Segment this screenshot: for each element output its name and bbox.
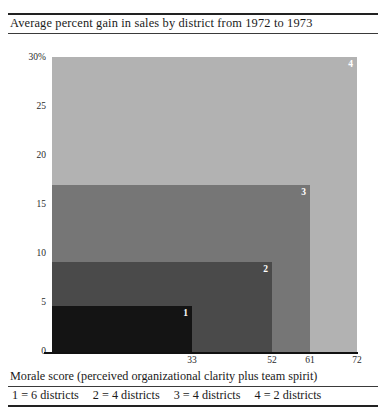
chart-title: Average percent gain in sales by distric… [10, 16, 380, 31]
y-tick-label: 30% [29, 53, 46, 63]
plot-area: 4 3 2 1 [52, 57, 357, 352]
legend-entry-3: 3 = 4 districts [174, 388, 241, 402]
footer-rule-top [8, 386, 378, 387]
y-tick-label: 10 [37, 249, 47, 259]
y-tick-label: 15 [37, 200, 47, 210]
footer-rule-bottom [8, 405, 378, 407]
bar-group-1[interactable]: 1 [52, 306, 192, 352]
legend-entry-2: 2 = 4 districts [93, 388, 160, 402]
bar-label-1: 1 [183, 309, 188, 319]
chart-page: Average percent gain in sales by distric… [0, 0, 386, 418]
y-tick-label: 20 [37, 151, 47, 161]
bar-label-2: 2 [263, 265, 268, 275]
x-tick-label: 61 [305, 356, 315, 366]
x-tick-label: 33 [187, 356, 197, 366]
legend-entry-4: 4 = 2 districts [255, 388, 322, 402]
x-axis-line [44, 352, 358, 354]
y-axis-ticks: 30% 25 20 15 10 5 0 [0, 0, 46, 418]
x-tick-label: 72 [352, 356, 362, 366]
title-rule-top [8, 13, 378, 15]
legend-entry-1: 1 = 6 districts [12, 388, 79, 402]
y-tick-label: 5 [41, 298, 46, 308]
y-tick-label: 25 [37, 102, 47, 112]
x-axis-label: Morale score (perceived organizational c… [10, 369, 382, 384]
title-rule-bottom [8, 33, 378, 34]
x-tick-label: 52 [267, 356, 277, 366]
bar-label-4: 4 [348, 60, 353, 70]
legend: 1 = 6 districts 2 = 4 districts 3 = 4 di… [12, 388, 382, 403]
bar-label-3: 3 [301, 188, 306, 198]
